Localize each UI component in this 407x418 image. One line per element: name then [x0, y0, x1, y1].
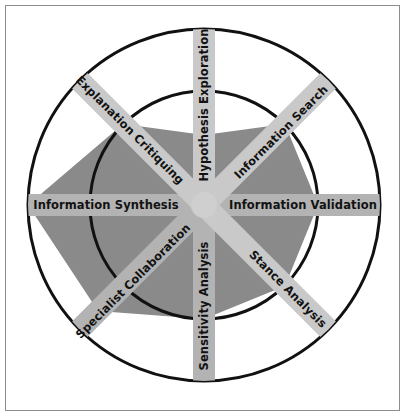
radar-diagram: [0, 0, 407, 418]
band-sensitivity-analysis: [193, 205, 215, 390]
band-hypothesis-exploration: [193, 20, 215, 205]
band-information-synthesis: [24, 194, 204, 216]
diagram-canvas: Hypothesis Exploration Information Searc…: [0, 0, 407, 418]
center-hub: [191, 192, 217, 218]
radar-plot-area: [24, 20, 384, 390]
band-information-validation: [204, 194, 384, 216]
